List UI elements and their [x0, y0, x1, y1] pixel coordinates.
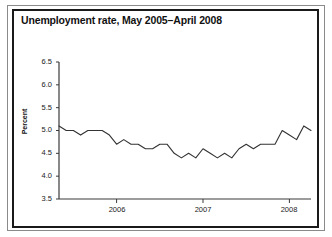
unemployment-rate-line [59, 126, 311, 158]
line-chart-svg [0, 0, 332, 237]
figure-panel: Unemployment rate, May 2005–April 2008 P… [0, 0, 332, 237]
caption-fragment [40, 229, 300, 237]
plot-area: Percent 6.5 6.0 5.5 5.0 4.5 4.0 3.5 2006… [0, 0, 332, 237]
x-tick-marks [117, 199, 290, 203]
